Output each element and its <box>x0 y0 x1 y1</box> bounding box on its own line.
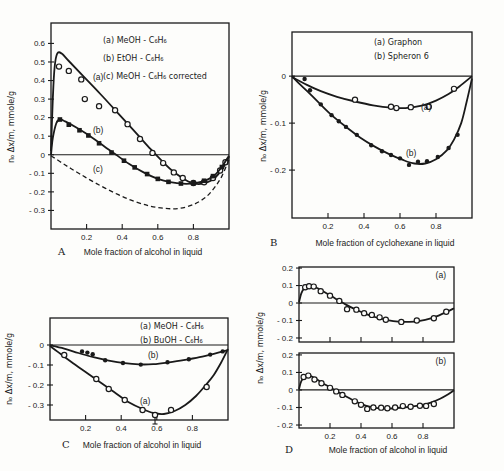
data-point-open-circle <box>431 316 436 321</box>
data-point-filled-square <box>145 172 150 177</box>
y-tick-label: - 0.1 <box>28 361 45 370</box>
data-point-filled-square <box>179 181 184 186</box>
x-axis-label: Mole fraction of alcohol in liquid <box>329 445 448 455</box>
data-point-open-circle <box>180 175 185 180</box>
y-tick-label: 0 <box>289 386 294 395</box>
y-axis-label: nₒ Δx/m, mmole/g <box>5 333 14 405</box>
y-tick-label: - 0.2 <box>277 334 294 343</box>
series-inline-label: (a) <box>93 72 104 82</box>
panel-a: 0.60.50.40.30.20.10- 0.1- 0.2- 0.30.20.4… <box>7 23 229 257</box>
data-point-filled-circle <box>407 163 411 167</box>
data-point-open-circle <box>417 403 422 408</box>
plot-frame <box>299 267 454 342</box>
data-point-filled-square <box>132 165 137 170</box>
data-point-open-circle <box>327 385 332 390</box>
data-point-filled-circle <box>220 349 224 353</box>
y-tick-label: 0.2 <box>282 264 294 273</box>
data-point-filled-circle <box>91 352 95 356</box>
data-point-filled-circle <box>103 358 107 362</box>
data-point-filled-circle <box>380 149 384 153</box>
panel-c: 0- 0.1- 0.2- 0.30.20.40.60.8(a)(b)(a) Me… <box>5 318 228 450</box>
data-point-open-circle <box>312 377 317 382</box>
data-point-filled-square <box>202 178 207 183</box>
data-point-filled-square <box>97 141 102 146</box>
data-point-open-circle <box>337 298 342 303</box>
data-point-filled-circle <box>369 143 373 147</box>
data-point-open-circle <box>140 407 145 412</box>
x-tick-label: 0.2 <box>322 222 334 231</box>
series-inline-label: (b) <box>93 125 104 135</box>
y-tick-label: - 0.2 <box>28 381 45 390</box>
data-point-filled-circle <box>398 156 402 160</box>
x-tick-label: 0.4 <box>116 424 128 433</box>
y-tick-label: - 0.2 <box>277 421 294 430</box>
data-point-filled-circle <box>436 155 440 159</box>
data-point-open-circle <box>352 399 357 404</box>
y-tick-label: 0.2 <box>34 113 46 122</box>
data-point-open-circle <box>94 376 99 381</box>
subplot-corner-label: (b) <box>436 356 447 366</box>
panel-letter: D <box>285 444 293 455</box>
data-point-filled-circle <box>208 352 212 356</box>
y-tick-label: 0 <box>40 341 45 350</box>
data-point-filled-circle <box>329 113 333 117</box>
data-point-open-circle <box>150 150 155 155</box>
data-point-open-circle <box>369 312 374 317</box>
y-tick-label: 0 <box>41 151 46 160</box>
data-point-open-circle <box>311 284 316 289</box>
x-tick-label: 0.8 <box>188 233 200 242</box>
data-point-open-circle <box>352 97 357 102</box>
data-point-filled-square <box>122 158 127 163</box>
data-point-filled-circle <box>389 153 393 157</box>
data-point-open-circle <box>152 412 157 417</box>
y-tick-label: 0.3 <box>34 95 46 104</box>
data-point-open-circle <box>318 289 323 294</box>
data-point-open-circle <box>171 170 176 175</box>
data-point-filled-circle <box>337 119 341 123</box>
x-tick-label: 0.8 <box>430 222 442 231</box>
panel-letter: B <box>270 237 277 248</box>
data-point-open-circle <box>408 404 413 409</box>
series-curve-b <box>50 345 228 364</box>
legend-entry: (a) Graphon <box>374 38 422 47</box>
data-point-open-circle <box>388 104 393 109</box>
data-point-open-circle <box>306 373 311 378</box>
data-point-open-circle <box>334 389 339 394</box>
y-tick-label: 0.5 <box>34 58 46 67</box>
series-inline-label: (a) <box>140 396 151 406</box>
y-tick-label: 0.1 <box>34 132 46 141</box>
data-point-open-circle <box>393 405 398 410</box>
panel-b: 0- 0.1- 0.20.20.40.60.8(a)(b)(a) Graphon… <box>259 32 472 248</box>
data-point-open-circle <box>371 405 376 410</box>
data-point-open-circle <box>106 386 111 391</box>
y-tick-label: 0.1 <box>282 281 294 290</box>
data-point-filled-square <box>220 165 225 170</box>
subplot-a: 0.20.10- 0.1- 0.2(a) <box>277 264 454 343</box>
data-point-filled-circle <box>455 133 459 137</box>
data-point-open-circle <box>358 402 363 407</box>
data-point-filled-circle <box>85 350 89 354</box>
x-tick-label: 0.6 <box>152 233 164 242</box>
data-point-filled-square <box>86 133 91 138</box>
x-tick-label: 0.2 <box>324 432 336 441</box>
data-point-open-circle <box>451 86 456 91</box>
data-point-open-circle <box>424 403 429 408</box>
data-point-open-circle <box>96 104 101 109</box>
data-point-filled-square <box>58 117 63 122</box>
y-tick-label: 0.2 <box>282 351 294 360</box>
legend-entry: (c) MeOH - C₆H₆ corrected <box>103 72 207 81</box>
x-tick-label: 0.4 <box>358 222 370 231</box>
y-tick-label: - 0.1 <box>270 119 287 128</box>
data-point-open-circle <box>161 161 166 166</box>
data-point-open-circle <box>400 403 405 408</box>
data-point-open-circle <box>82 96 87 101</box>
y-tick-label: - 0.2 <box>29 188 46 197</box>
series-inline-label: (b) <box>406 148 417 158</box>
data-point-open-circle <box>319 381 324 386</box>
data-point-open-circle <box>414 318 419 323</box>
y-tick-label: - 0.1 <box>277 316 294 325</box>
series-inline-label: (c) <box>93 164 103 174</box>
y-axis-label: nₒ Δx/m, mmole/g <box>259 90 268 162</box>
data-point-filled-circle <box>165 360 169 364</box>
data-point-filled-circle <box>308 88 312 92</box>
